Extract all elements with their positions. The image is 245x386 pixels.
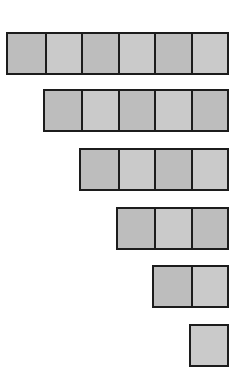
square xyxy=(45,91,82,130)
square xyxy=(191,91,228,130)
square xyxy=(154,267,191,306)
square xyxy=(8,34,45,73)
square xyxy=(118,150,155,189)
square xyxy=(154,34,191,73)
square-row-3 xyxy=(79,148,229,191)
square-row-6 xyxy=(189,324,230,367)
square xyxy=(81,150,118,189)
square-row-2 xyxy=(43,89,230,132)
square-row-1 xyxy=(6,32,229,75)
square xyxy=(118,209,155,248)
square xyxy=(118,34,155,73)
square xyxy=(154,150,191,189)
square-row-5 xyxy=(152,265,229,308)
square xyxy=(154,91,191,130)
square xyxy=(154,209,191,248)
square xyxy=(191,150,228,189)
square xyxy=(81,34,118,73)
square xyxy=(191,209,228,248)
square-row-4 xyxy=(116,207,230,250)
square xyxy=(81,91,118,130)
square xyxy=(45,34,82,73)
square xyxy=(191,34,228,73)
square xyxy=(118,91,155,130)
square xyxy=(191,326,228,365)
square xyxy=(191,267,228,306)
